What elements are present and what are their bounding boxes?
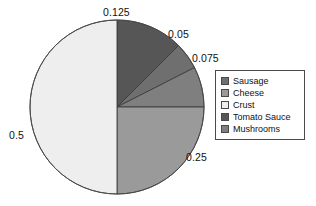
legend-swatch-icon-tomato-sauce [221, 113, 229, 121]
legend-swatch-icon-cheese [221, 89, 229, 97]
legend: Sausage Cheese Crust Tomato Sauce Mushro… [215, 70, 305, 140]
legend-swatch-icon-crust [221, 101, 229, 109]
pie-slices [30, 20, 204, 194]
slice-label-005: 0.05 [168, 29, 189, 40]
slice-label-025: 0.25 [186, 152, 207, 163]
legend-item-sausage[interactable]: Sausage [221, 75, 300, 87]
legend-item-cheese[interactable]: Cheese [221, 87, 300, 99]
legend-label-tomato-sauce: Tomato Sauce [233, 113, 291, 122]
slice-label-0075: 0.075 [192, 53, 219, 64]
legend-item-mushrooms[interactable]: Mushrooms [221, 123, 300, 135]
pie-chart-figure: 0.125 0.05 0.075 0.25 0.5 Sausage Cheese… [0, 0, 316, 206]
slice-label-05: 0.5 [9, 130, 24, 141]
legend-label-sausage: Sausage [233, 77, 269, 86]
slice-label-0125: 0.125 [103, 7, 130, 18]
legend-item-tomato-sauce[interactable]: Tomato Sauce [221, 111, 300, 123]
legend-label-mushrooms: Mushrooms [233, 125, 280, 134]
legend-item-crust[interactable]: Crust [221, 99, 300, 111]
legend-label-crust: Crust [233, 101, 255, 110]
legend-swatch-icon-mushrooms [221, 125, 229, 133]
pie-slice-crust[interactable] [30, 20, 117, 194]
legend-label-cheese: Cheese [233, 89, 264, 98]
legend-swatch-icon-sausage [221, 77, 229, 85]
